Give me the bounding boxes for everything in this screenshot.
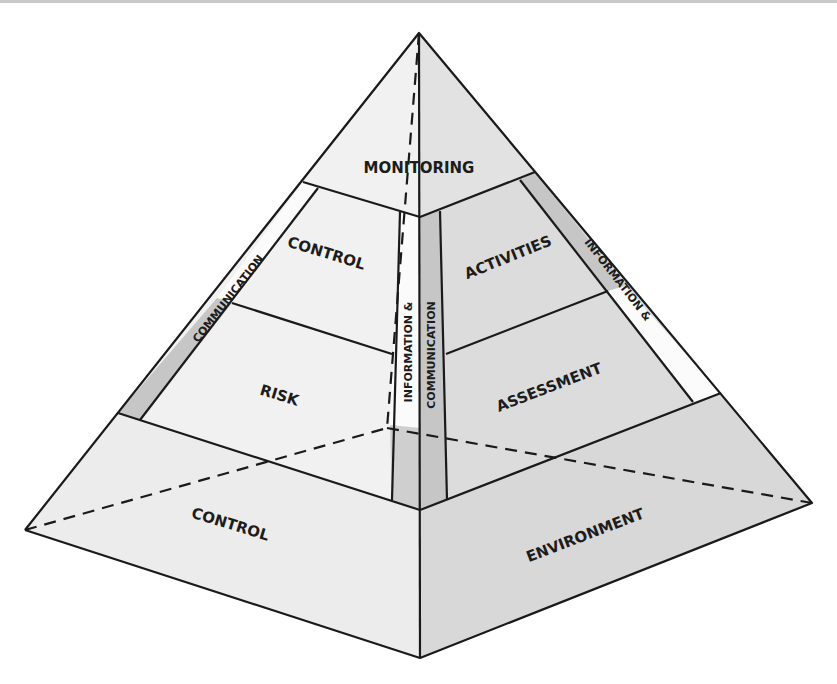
coso-pyramid-diagram: MONITORING CONTROL ACTIVITIES RISK ASSES… xyxy=(0,0,837,684)
label-center-right-strip: COMMUNICATION xyxy=(425,301,438,408)
front-edge xyxy=(419,33,420,658)
label-center-left-strip: INFORMATION & xyxy=(402,301,415,402)
label-monitoring: MONITORING xyxy=(364,159,475,177)
